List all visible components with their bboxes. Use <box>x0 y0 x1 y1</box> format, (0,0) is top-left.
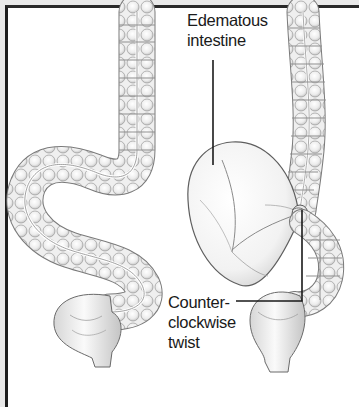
normal-colon <box>25 12 155 367</box>
edematous-label-line-2: intestine <box>187 30 268 50</box>
edematous-label-line-1: Edematous <box>187 10 268 30</box>
twist-label-line-1: Counter- <box>168 292 236 312</box>
twist-label-line-3: twist <box>168 332 236 352</box>
edematous-intestine-label: Edematous intestine <box>187 10 268 50</box>
counterclockwise-twist-label: Counter- clockwise twist <box>168 292 236 352</box>
twist-label-line-2: clockwise <box>168 312 236 332</box>
